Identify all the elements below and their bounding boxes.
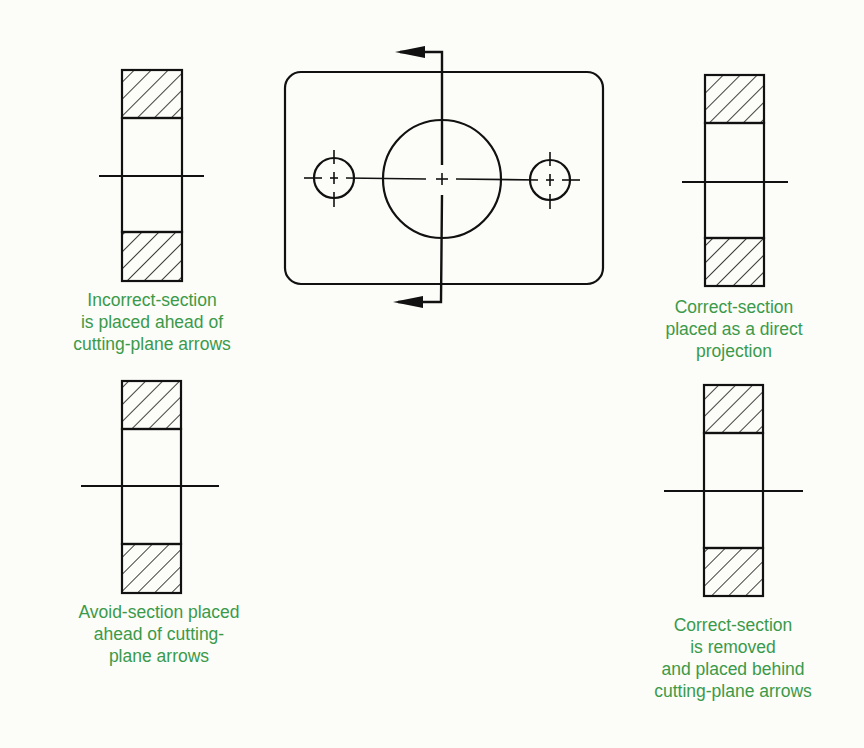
caption-line: Correct-section — [618, 614, 848, 636]
caption-avoid: Avoid-section placed ahead of cutting- p… — [44, 601, 274, 667]
caption-line: placed as a direct — [634, 318, 834, 340]
cutting-plane-arrow-top — [395, 46, 425, 58]
caption-line: ahead of cutting- — [44, 623, 274, 645]
caption-incorrect: Incorrect-section is placed ahead of cut… — [52, 289, 252, 355]
section-correct-projection — [682, 75, 788, 286]
cutting-plane-line — [398, 52, 442, 302]
caption-correct-removed: Correct-section is removed and placed be… — [618, 614, 848, 702]
caption-line: projection — [634, 340, 834, 362]
caption-line: cutting-plane arrows — [52, 333, 252, 355]
caption-line: Incorrect-section — [52, 289, 252, 311]
caption-line: Avoid-section placed — [44, 601, 274, 623]
caption-correct-projection: Correct-section placed as a direct proje… — [634, 296, 834, 362]
caption-line: plane arrows — [44, 645, 274, 667]
section-incorrect — [99, 70, 204, 281]
main-view — [285, 46, 603, 308]
caption-line: is placed ahead of — [52, 311, 252, 333]
section-avoid — [81, 381, 219, 593]
caption-line: is removed — [618, 636, 848, 658]
cutting-plane-arrow-bottom — [393, 296, 423, 308]
section-correct-removed — [664, 385, 803, 596]
caption-line: Correct-section — [634, 296, 834, 318]
caption-line: and placed behind — [618, 658, 848, 680]
caption-line: cutting-plane arrows — [618, 680, 848, 702]
